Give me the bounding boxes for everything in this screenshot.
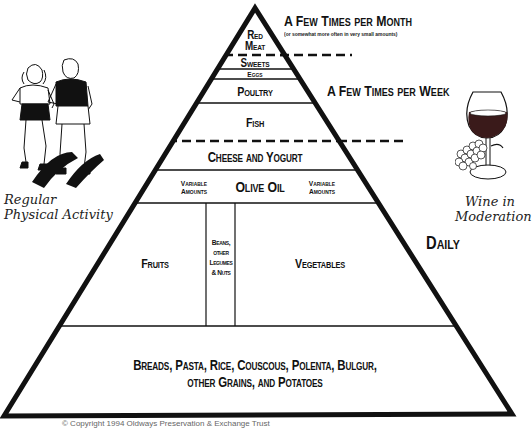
physical-activity-line1: Regular xyxy=(4,192,113,207)
wine-glass-icon xyxy=(455,88,519,192)
tier-grains: Breads, Pasta, Rice, Couscous, Polenta, … xyxy=(95,357,415,391)
red-meat-line2: Meat xyxy=(230,41,279,52)
frequency-daily: Daily xyxy=(426,234,460,252)
tier-beans-legumes-nuts: Beans, other Legumes & Nuts xyxy=(208,238,234,278)
frequency-monthly: A Few Times per Month xyxy=(284,13,412,28)
physical-activity-line2: Physical Activity xyxy=(4,207,113,222)
copyright-notice: © Copyright 1994 Oldways Preservation & … xyxy=(62,419,270,428)
tier-olive-oil: Olive Oil xyxy=(219,179,301,194)
tier-red-meat: Red Meat xyxy=(230,30,279,52)
frequency-weekly: A Few Times per Week xyxy=(327,83,449,98)
tier-fish: Fish xyxy=(214,116,296,129)
tier-fruits: Fruits xyxy=(118,257,192,270)
tier-vegetables: Vegetables xyxy=(271,257,369,270)
right-note-line2: Amounts xyxy=(302,188,341,196)
grains-line2: other Grains, and Potatoes xyxy=(95,374,415,391)
frequency-monthly-note: (or somewhat more often in very small am… xyxy=(284,31,397,37)
beans-line3: Legumes xyxy=(208,258,234,268)
beans-line4: & Nuts xyxy=(208,268,234,278)
olive-oil-right-note: Variable Amounts xyxy=(302,180,341,196)
wine-line2: Moderation xyxy=(455,209,515,224)
tier-poultry: Poultry xyxy=(214,85,296,98)
beans-line2: other xyxy=(208,248,234,258)
grains-line1: Breads, Pasta, Rice, Couscous, Polenta, … xyxy=(95,357,415,374)
runners-icon xyxy=(6,58,106,198)
tier-eggs: Eggs xyxy=(222,71,288,79)
physical-activity-label: Regular Physical Activity xyxy=(4,192,113,222)
beans-line1: Beans, xyxy=(208,238,234,248)
olive-oil-left-note: Variable Amounts xyxy=(174,180,213,196)
left-note-line2: Amounts xyxy=(174,188,213,196)
tier-cheese-yogurt: Cheese and Yogurt xyxy=(185,150,324,164)
tier-sweets: Sweets xyxy=(222,57,288,69)
wine-moderation-label: Wine in Moderation xyxy=(455,194,515,224)
wine-line1: Wine in xyxy=(455,194,515,209)
